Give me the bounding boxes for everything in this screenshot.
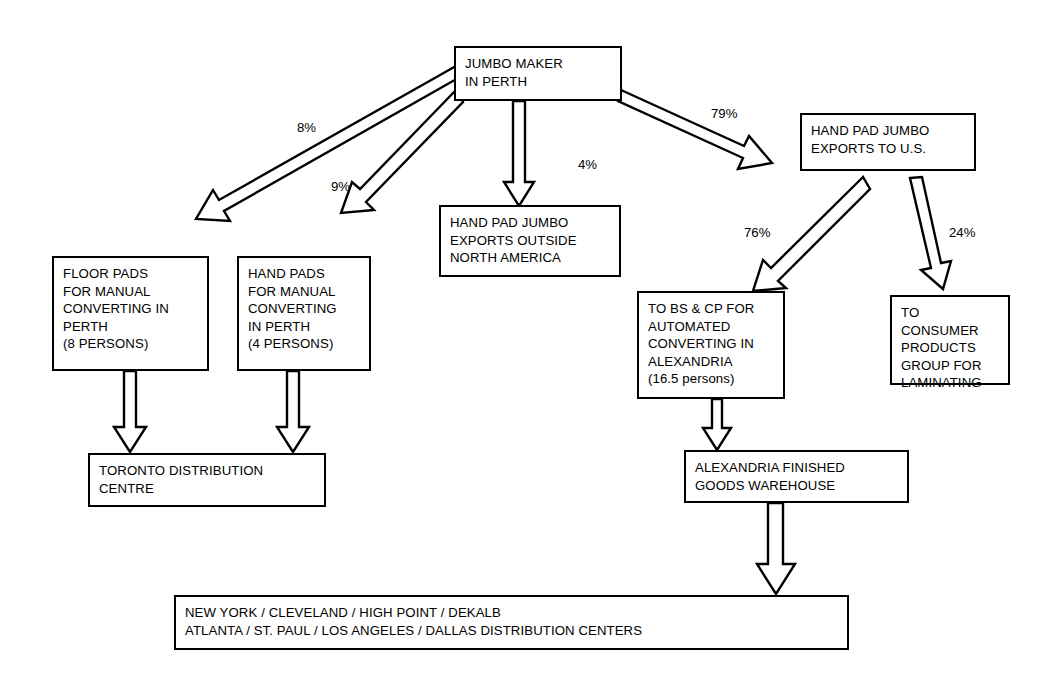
edge-label-exports-outside-percent: 4% xyxy=(578,157,597,172)
node-distribution-centers[interactable]: NEW YORK / CLEVELAND / HIGH POINT / DEKA… xyxy=(174,595,849,650)
node-toronto-distribution-centre[interactable]: TORONTO DISTRIBUTION CENTRE xyxy=(88,453,326,507)
node-alexandria-goods-warehouse[interactable]: ALEXANDRIA FINISHED GOODS WAREHOUSE xyxy=(684,450,909,503)
edge-label-exports-us-percent: 79% xyxy=(711,106,737,121)
node-bs-cp-automated-converting[interactable]: TO BS & CP FOR AUTOMATED CONVERTING IN A… xyxy=(637,291,785,399)
arrow-jumbo-to-exports-us xyxy=(618,90,772,169)
arrow-us-to-bs-cp xyxy=(753,177,870,291)
arrow-alexandria-to-distribution xyxy=(757,503,795,594)
arrow-hand-pads-to-toronto xyxy=(277,371,309,452)
arrow-jumbo-to-exports-outside xyxy=(504,101,534,206)
node-floor-pads-manual-converting[interactable]: FLOOR PADS FOR MANUAL CONVERTING IN PERT… xyxy=(52,256,209,371)
node-consumer-products-laminating[interactable]: TO CONSUMER PRODUCTS GROUP FOR LAMINATIN… xyxy=(890,295,1010,385)
edge-label-floor-pads-percent: 8% xyxy=(297,120,316,135)
arrow-floor-pads-to-toronto xyxy=(114,371,146,452)
arrow-bs-cp-to-alexandria xyxy=(703,399,731,450)
node-hand-pads-manual-converting[interactable]: HAND PADS FOR MANUAL CONVERTING IN PERTH… xyxy=(237,256,371,371)
edge-label-bs-cp-percent: 76% xyxy=(744,225,770,240)
edge-label-hand-pads-percent: 9% xyxy=(331,179,350,194)
node-hand-pad-jumbo-exports-outside[interactable]: HAND PAD JUMBO EXPORTS OUTSIDE NORTH AME… xyxy=(439,205,621,277)
flowchart-canvas: JUMBO MAKER IN PERTH HAND PAD JUMBO EXPO… xyxy=(0,0,1064,694)
node-jumbo-maker[interactable]: JUMBO MAKER IN PERTH xyxy=(454,46,622,101)
node-hand-pad-jumbo-exports-us[interactable]: HAND PAD JUMBO EXPORTS TO U.S. xyxy=(800,113,976,171)
edge-label-consumer-products-percent: 24% xyxy=(949,225,975,240)
arrow-us-to-consumer-products xyxy=(910,177,951,289)
